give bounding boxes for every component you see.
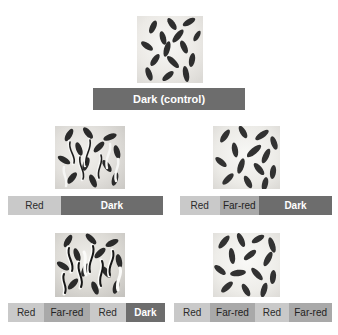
segment-far-red: Far-red <box>210 303 254 322</box>
segment-dark: Dark <box>259 196 332 215</box>
segment-red: Red <box>8 196 61 215</box>
segment-dark: Dark <box>126 303 165 322</box>
seed-photo-graphic <box>137 16 203 83</box>
treatment-bar-red-farred-red: Red Far-red Red Dark <box>8 303 165 322</box>
lettuce-seed-phytochrome-figure: Dark (control) <box>0 0 338 335</box>
treatment-bar-red: Red Dark <box>8 196 163 215</box>
segment-red: Red <box>90 303 126 322</box>
segment-red: Red <box>174 303 210 322</box>
photo-red <box>55 126 125 189</box>
treatment-bar-red-farred-red-farred: Red Far-red Red Far-red <box>174 303 332 322</box>
photo-red-farred-red <box>55 233 125 297</box>
treatment-bar-control: Dark (control) <box>93 88 245 110</box>
seed-photo-graphic <box>55 126 125 189</box>
photo-control <box>137 16 203 83</box>
segment-far-red: Far-red <box>220 196 260 215</box>
segment-red: Red <box>8 303 44 322</box>
photo-red-farred <box>213 126 280 189</box>
segment-far-red: Far-red <box>44 303 90 322</box>
segment-dark: Dark (control) <box>93 88 245 110</box>
seed-photo-graphic <box>213 126 280 189</box>
treatment-bar-red-farred: Red Far-red Dark <box>180 196 332 215</box>
photo-red-farred-red-farred <box>213 233 280 297</box>
segment-far-red: Far-red <box>289 303 332 322</box>
seed-photo-graphic <box>213 233 280 297</box>
segment-red: Red <box>255 303 290 322</box>
segment-dark: Dark <box>61 196 163 215</box>
seed-photo-graphic <box>55 233 125 297</box>
segment-red: Red <box>180 196 220 215</box>
